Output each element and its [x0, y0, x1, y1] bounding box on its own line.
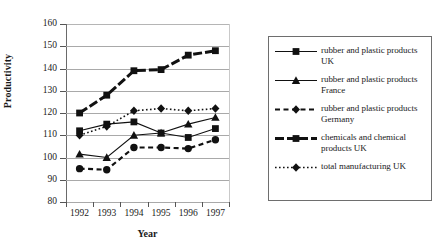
x-axis-tick [148, 202, 149, 207]
y-axis-tick-label: 150 [32, 41, 57, 51]
legend-item[interactable]: rubber and plastic products UK [273, 44, 427, 67]
y-axis-tick-label: 140 [32, 64, 57, 74]
gridline [66, 113, 229, 114]
legend-key-square-icon [273, 131, 321, 146]
x-axis-tick [202, 202, 203, 207]
y-axis-tick [60, 158, 66, 159]
chart-root: Productivity 1601501401301201101009080 1… [0, 0, 437, 252]
gridline [66, 91, 229, 92]
y-axis-tick-label: 120 [32, 108, 57, 118]
y-axis-tick-label: 130 [32, 86, 57, 96]
y-axis-tick-label: 110 [32, 130, 57, 140]
y-axis-tick [60, 69, 66, 70]
y-axis-tick [60, 91, 66, 92]
legend-key-diamond-icon [273, 102, 321, 117]
x-axis-tick [175, 202, 176, 207]
legend-item[interactable]: rubber and plastic products Germany [273, 102, 427, 125]
x-axis-title: Year [66, 228, 229, 239]
gridline [66, 46, 229, 47]
gridline [66, 158, 229, 159]
y-axis-tick [60, 135, 66, 136]
data-point-marker [293, 135, 300, 142]
chart-legend: rubber and plastic products UKrubber and… [268, 36, 432, 201]
x-axis-tick [229, 202, 230, 207]
legend-key-square-icon [273, 44, 321, 59]
legend-item[interactable]: chemicals and chemical products UK [273, 131, 427, 154]
legend-label: total manufacturing UK [321, 160, 406, 172]
y-axis-tick-label: 160 [32, 19, 57, 29]
gridline [66, 180, 229, 181]
data-point-marker [293, 48, 300, 55]
legend-key-diamond-icon [273, 160, 321, 175]
y-axis-tick [60, 24, 66, 25]
data-point-marker [292, 105, 300, 114]
data-point-marker [292, 163, 300, 172]
y-axis-tick [60, 46, 66, 47]
plot-right-border [229, 24, 230, 202]
y-axis-tick [60, 180, 66, 181]
legend-label: rubber and plastic products UK [321, 44, 427, 67]
legend-label: rubber and plastic products France [321, 73, 427, 96]
x-axis-tick-label: 1997 [195, 208, 235, 218]
x-axis-tick [93, 202, 94, 207]
legend-item[interactable]: total manufacturing UK [273, 160, 427, 177]
y-axis-title: Productivity [2, 31, 16, 131]
y-axis-tick-label: 100 [32, 153, 57, 163]
legend-label: chemicals and chemical products UK [321, 131, 427, 154]
y-axis-tick-label: 80 [32, 197, 57, 207]
gridline [66, 69, 229, 70]
legend-label: rubber and plastic products Germany [321, 102, 427, 125]
legend-key-triangle-icon [273, 73, 321, 88]
x-axis-tick [66, 202, 67, 207]
legend-item[interactable]: rubber and plastic products France [273, 73, 427, 96]
gridline [66, 135, 229, 136]
y-axis-tick-label: 90 [32, 175, 57, 185]
y-axis-tick [60, 113, 66, 114]
x-axis-tick [120, 202, 121, 207]
